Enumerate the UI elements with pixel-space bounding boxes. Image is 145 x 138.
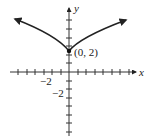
x-axis-label: x (138, 66, 144, 78)
y-tick-label: −2 (52, 87, 64, 99)
point-label: (0, 2) (74, 46, 98, 59)
graph: (0, 2) x y −2 −2 (0, 0, 145, 138)
y-axis-label: y (73, 2, 79, 14)
x-tick-label: −2 (40, 75, 52, 87)
curve-left (15, 19, 69, 51)
vertex-point (67, 49, 71, 53)
